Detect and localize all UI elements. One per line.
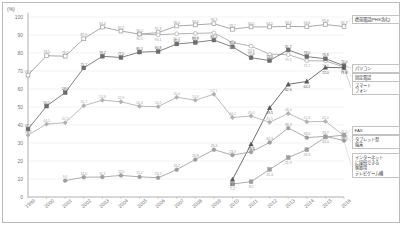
data-label-fax: 41.3 [62,117,69,121]
y-axis-tick-label: 60 [7,86,23,92]
data-point-tablet [268,168,272,172]
data-point-personal-computer [193,40,197,44]
data-label-mobile-phone: 91.3 [155,27,162,31]
data-label-fax: 50.2 [155,101,162,105]
data-point-tablet [286,156,290,160]
data-label-personal-computer: 76.8 [322,53,329,57]
data-label-game-console: 15.2 [173,164,180,168]
data-label-smartphone: 71.8 [341,71,348,75]
legend-item-smartphone: スマート フォン [352,81,400,95]
data-label-landline-phone: 75.7 [304,64,311,68]
data-point-mobile-phone [286,24,290,28]
data-point-landline-phone [156,33,160,37]
y-axis-tick-label: 50 [7,104,23,110]
data-point-game-console [63,179,67,183]
y-axis-tick-label: 40 [7,122,23,128]
data-point-game-console [268,141,272,145]
data-point-personal-computer [175,42,179,46]
data-label-landline-phone: 85.8 [229,46,236,50]
y-axis-tick-label: 30 [7,140,23,146]
data-point-tablet [249,180,253,184]
data-label-game-console: 11.1 [99,172,105,176]
data-label-landline-phone: 75.6 [322,64,329,68]
chart-plot-area [0,0,402,225]
data-label-game-console: 26.3 [211,144,218,148]
data-label-mobile-phone: 95.0 [173,21,180,25]
data-point-game-console [212,148,216,152]
data-label-personal-computer: 80.8 [155,46,162,50]
data-label-fax: 34.1 [341,130,348,134]
series-line-landline-phone [140,33,344,67]
data-label-mobile-phone: 87.9 [80,33,87,37]
data-point-mobile-phone [193,23,197,27]
data-label-smartphone: 64.2 [304,85,311,89]
data-label-game-console: 33.7 [322,131,329,135]
data-point-smartphone [230,177,234,181]
data-point-personal-computer [63,91,67,95]
data-point-game-console [193,158,197,162]
data-label-game-console: 31.4 [341,135,348,139]
data-label-game-console: 33.0 [304,132,311,136]
data-point-landline-phone [193,31,197,35]
data-label-personal-computer: 75.8 [266,55,273,59]
data-point-landline-phone [175,32,179,36]
data-point-landline-phone [286,53,290,57]
data-label-mobile-phone: 94.5 [266,22,273,26]
data-label-fax: 50.7 [80,100,87,104]
data-label-mobile-phone: 94.5 [248,22,255,26]
data-point-personal-computer [156,50,160,54]
data-label-personal-computer: 37.7 [25,124,32,128]
legend-item-fax: FAX [352,126,400,135]
data-point-smartphone [249,142,253,146]
data-label-personal-computer: 80.5 [136,47,143,51]
data-label-personal-computer: 73.0 [341,60,348,64]
data-label-tablet: 15.3 [266,173,273,177]
data-point-game-console [119,174,123,178]
y-axis-tick-label: 20 [7,158,23,164]
data-label-fax: 46.4 [285,108,292,112]
data-point-game-console [100,175,104,179]
data-label-mobile-phone: 94.4 [99,22,106,26]
series-line-game-console [65,128,344,181]
data-point-personal-computer [286,48,290,52]
data-label-mobile-phone: 93.2 [229,24,236,28]
data-label-personal-computer: 50.5 [43,101,50,105]
data-label-game-console: 25.0 [248,147,255,151]
data-label-fax: 34.4 [25,130,32,134]
legend-item-mobile-phone: 携帯電話(PHS含む) [352,15,400,24]
legend-item-tablet: タブレット型 端末 [352,135,400,149]
data-label-fax: 55.4 [173,92,180,96]
data-label-fax: 41.8 [304,116,311,120]
data-label-tablet: 21.9 [285,161,292,165]
data-point-mobile-phone [324,23,328,27]
data-label-game-console: 12.0 [118,170,125,174]
chart-root: (%) 0102030405060708090100 1999200020012… [0,0,402,225]
data-label-personal-computer: 78.0 [304,51,311,55]
data-point-game-console [324,134,328,138]
data-point-personal-computer [100,54,104,58]
data-point-mobile-phone [45,54,49,58]
data-point-personal-computer [82,66,86,70]
data-label-personal-computer: 85.9 [192,37,199,41]
data-label-fax: 53.8 [99,95,106,99]
data-label-mobile-phone: 94.6 [304,21,311,25]
data-point-mobile-phone [212,22,216,26]
data-label-mobile-phone: 96.3 [211,18,218,22]
data-label-fax: 40.5 [43,119,50,123]
data-point-personal-computer [119,56,123,60]
data-point-personal-computer [249,56,253,60]
data-label-fax: 44.2 [229,112,236,116]
data-point-landline-phone [138,32,142,36]
data-label-fax: 52.9 [118,96,125,100]
data-point-mobile-phone [231,27,235,31]
data-point-landline-phone [249,44,253,48]
y-axis-tick-label: 10 [7,176,23,182]
data-label-personal-computer: 71.7 [80,63,87,67]
data-label-personal-computer: 85.0 [173,39,180,43]
data-point-game-console [156,176,160,180]
data-point-mobile-phone [175,24,179,28]
data-label-mobile-phone: 78.2 [62,51,69,55]
data-label-smartphone: 9.7 [230,183,235,187]
data-label-personal-computer: 83.4 [229,41,236,45]
data-label-tablet: 7.2 [230,187,235,191]
